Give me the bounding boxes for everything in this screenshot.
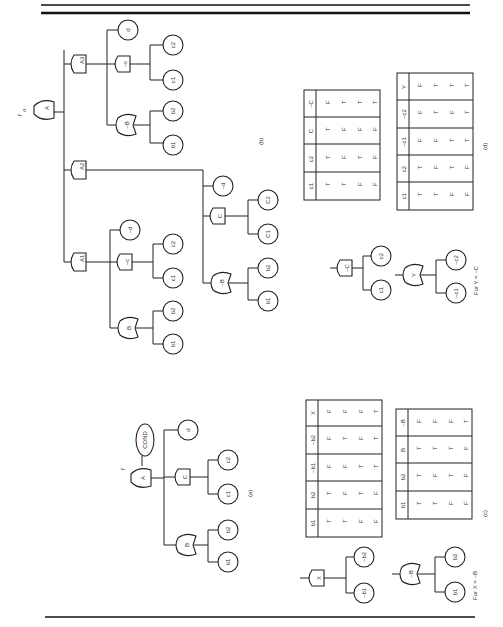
svg-text:~c: ~c: [122, 61, 128, 68]
truth-table-b: c1 c2 C ~C TTFF TFTF TFFF FTTT: [304, 90, 380, 200]
svg-text:F: F: [325, 100, 331, 104]
caption-b: (b): [258, 138, 264, 145]
svg-text:C1: C1: [265, 230, 271, 238]
svg-text:F: F: [433, 165, 439, 169]
svg-text:F: F: [448, 419, 454, 423]
svg-text:T: T: [448, 473, 454, 477]
svg-text:~c1: ~c1: [453, 287, 459, 298]
svg-text:~c1: ~c1: [401, 136, 407, 147]
svg-text:T: T: [449, 83, 455, 87]
svg-text:T: T: [449, 138, 455, 142]
svg-text:F: F: [463, 446, 469, 450]
svg-text:F: F: [357, 127, 363, 131]
svg-text:c1: c1: [378, 286, 384, 293]
svg-text:Y: Y: [411, 273, 417, 277]
svg-text:F: F: [372, 155, 378, 159]
fo-label: f: [17, 114, 23, 116]
svg-text:c1: c1: [170, 274, 176, 281]
svg-text:T: T: [357, 155, 363, 159]
svg-text:b1: b1: [265, 297, 271, 304]
svg-text:b1: b1: [225, 558, 231, 565]
svg-text:C: C: [182, 474, 188, 479]
svg-text:c1: c1: [170, 76, 176, 83]
small-tree-X: X ~b2 ~b1: [300, 547, 374, 603]
svg-text:~B: ~B: [124, 121, 130, 129]
svg-text:~b2: ~b2: [310, 434, 316, 445]
svg-text:F: F: [417, 83, 423, 87]
svg-text:c2: c2: [308, 155, 314, 162]
svg-text:A1: A1: [79, 254, 85, 262]
svg-text:T: T: [448, 446, 454, 450]
svg-text:F: F: [373, 491, 379, 495]
svg-text:F: F: [326, 464, 332, 468]
svg-text:T: T: [432, 446, 438, 450]
svg-text:T: T: [341, 182, 347, 186]
svg-text:~C: ~C: [344, 263, 350, 272]
svg-text:T: T: [449, 165, 455, 169]
svg-text:T: T: [416, 446, 422, 450]
svg-text:~c: ~c: [124, 259, 130, 266]
svg-text:F: F: [358, 436, 364, 440]
svg-text:T: T: [325, 182, 331, 186]
caption-d: (d): [482, 143, 488, 150]
caption-a: (a): [247, 490, 253, 497]
svg-text:~d: ~d: [127, 227, 133, 234]
svg-text:F: F: [372, 127, 378, 131]
svg-text:f: f: [120, 468, 126, 470]
svg-text:T: T: [326, 491, 332, 495]
svg-text:F: F: [342, 464, 348, 468]
svg-text:~B: ~B: [400, 419, 406, 427]
svg-text:F: F: [432, 473, 438, 477]
svg-text:T: T: [433, 110, 439, 114]
svg-text:B: B: [126, 326, 132, 330]
svg-text:F: F: [341, 155, 347, 159]
svg-text:b1: b1: [170, 340, 176, 347]
svg-text:F: F: [449, 110, 455, 114]
svg-text:c1: c1: [401, 192, 407, 199]
svg-text:F: F: [433, 138, 439, 142]
svg-text:F: F: [341, 127, 347, 131]
svg-text:COND: COND: [142, 431, 148, 449]
svg-text:F: F: [326, 409, 332, 413]
svg-text:~b1: ~b1: [310, 462, 316, 473]
svg-text:F: F: [464, 165, 470, 169]
svg-text:C: C: [308, 128, 314, 133]
svg-text:T: T: [326, 519, 332, 523]
svg-text:c1: c1: [225, 490, 231, 497]
svg-text:T: T: [325, 127, 331, 131]
svg-text:b2: b2: [310, 491, 316, 498]
svg-text:T: T: [342, 519, 348, 523]
svg-text:T: T: [373, 436, 379, 440]
svg-text:T: T: [464, 110, 470, 114]
svg-text:T: T: [342, 436, 348, 440]
svg-text:b2: b2: [170, 307, 176, 314]
svg-text:F: F: [358, 409, 364, 413]
svg-text:F: F: [417, 138, 423, 142]
svg-text:b2: b2: [452, 553, 458, 560]
svg-text:F: F: [463, 473, 469, 477]
svg-text:c2: c2: [170, 41, 176, 48]
svg-text:T: T: [357, 100, 363, 104]
svg-text:F: F: [463, 501, 469, 505]
svg-text:~b2: ~b2: [361, 551, 367, 562]
svg-text:A: A: [44, 106, 50, 110]
svg-text:A2: A2: [79, 162, 85, 170]
svg-text:c1: c1: [308, 182, 314, 189]
svg-text:b2: b2: [265, 264, 271, 271]
svg-text:b1: b1: [310, 519, 316, 526]
svg-text:F: F: [326, 436, 332, 440]
svg-text:T: T: [433, 83, 439, 87]
svg-text:T: T: [463, 419, 469, 423]
svg-text:b1: b1: [170, 141, 176, 148]
svg-text:F: F: [372, 182, 378, 186]
svg-text:T: T: [416, 473, 422, 477]
svg-text:~d: ~d: [220, 183, 226, 190]
svg-text:F: F: [449, 192, 455, 196]
fault-tree-figure: f o A A3 A2 A1 d ~c c2 c1: [0, 0, 503, 627]
svg-text:c2: c2: [170, 240, 176, 247]
svg-text:C: C: [217, 213, 223, 218]
svg-text:X: X: [316, 576, 322, 580]
svg-text:T: T: [432, 501, 438, 505]
svg-text:T: T: [325, 155, 331, 159]
svg-text:c2: c2: [378, 252, 384, 259]
